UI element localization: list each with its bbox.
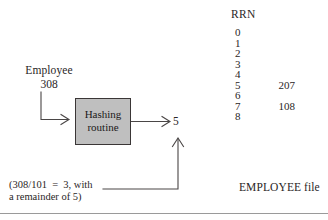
rrn-index: 0 <box>235 27 241 38</box>
feedback-connector <box>103 139 178 189</box>
figure-bottom-rule <box>0 213 328 214</box>
table-row: 0 <box>231 27 306 38</box>
hashing-routine-label: Hashing routine <box>76 108 130 133</box>
rrn-value: 108 <box>261 101 295 112</box>
caption-line1: (308/101 = 3, with <box>9 179 93 191</box>
table-row: 5 207 <box>231 80 306 91</box>
table-row: 1 <box>231 38 306 49</box>
hashing-routine-box: Hashing routine <box>75 98 131 145</box>
table-row: 4 <box>231 69 306 80</box>
rrn-table: 0 1 2 3 4 5 207 6 7 108 <box>231 27 306 122</box>
rrn-value: 207 <box>261 80 295 91</box>
input-label: Employee <box>14 64 84 77</box>
caption-line2: a remainder of 5) <box>9 191 93 203</box>
table-row: 3 <box>231 59 306 70</box>
hashing-diagram-figure: Employee 308 Hashing routine 5 (308/101 … <box>0 0 328 220</box>
rrn-index: 4 <box>235 69 241 80</box>
input-connector <box>41 92 68 120</box>
hashing-routine-line1: Hashing <box>76 108 130 121</box>
hashing-routine-line2: routine <box>76 121 130 134</box>
rrn-index: 6 <box>235 90 241 101</box>
output-value: 5 <box>173 115 179 128</box>
table-row: 7 108 <box>231 101 306 112</box>
rrn-index: 8 <box>235 111 241 122</box>
file-label: EMPLOYEE file <box>239 181 320 194</box>
rrn-index: 2 <box>235 48 241 59</box>
caption: (308/101 = 3, with a remainder of 5) <box>9 179 93 202</box>
rrn-column-header: RRN <box>231 8 256 21</box>
table-row: 2 <box>231 48 306 59</box>
input-value: 308 <box>14 78 84 91</box>
table-row: 6 <box>231 90 306 101</box>
table-row: 8 <box>231 111 306 122</box>
